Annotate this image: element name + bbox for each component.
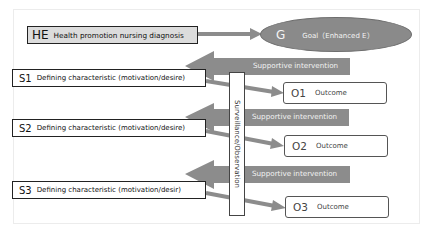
he-to-goal-arrow <box>198 28 262 40</box>
s1-label: Defining characteristic (motivation/desi… <box>37 74 185 82</box>
outcome-box-3: O3 Outcome <box>285 196 389 218</box>
s2-to-o2-arrow <box>206 131 284 149</box>
defining-characteristic-box-2: S2 Defining characteristic (motivation/d… <box>12 119 206 137</box>
surveillance-observation-box: Surveillance/Observation <box>229 72 245 216</box>
o1-code: O1 <box>291 87 306 99</box>
o3-code: O3 <box>293 201 308 213</box>
o2-code: O2 <box>292 140 307 152</box>
outcome-box-2: O2 Outcome <box>284 135 388 157</box>
surveillance-label: Surveillance/Observation <box>233 100 241 188</box>
he-label: Health promotion nursing diagnosis <box>54 31 184 40</box>
supportive-intervention-label-1: Supportive intervention <box>253 61 338 70</box>
s3-code: S3 <box>19 185 32 196</box>
s1-to-o1-arrow <box>206 81 284 97</box>
s2-code: S2 <box>19 123 32 134</box>
o2-label: Outcome <box>316 142 348 150</box>
s2-label: Defining characteristic (motivation/desi… <box>37 124 185 132</box>
supportive-intervention-label-2: Supportive intervention <box>252 112 337 121</box>
s3-label: Defining characteristic (motivation/desi… <box>37 186 181 194</box>
goal-ellipse: G Goal（Enhanced E） <box>260 17 412 52</box>
defining-characteristic-box-3: S3 Defining characteristic (motivation/d… <box>12 181 206 199</box>
goal-label: Goal（Enhanced E） <box>302 30 373 40</box>
supportive-intervention-label-3: Supportive intervention <box>252 169 337 178</box>
defining-characteristic-box-1: S1 Defining characteristic (motivation/d… <box>12 69 206 87</box>
he-code: HE <box>32 28 49 42</box>
o3-label: Outcome <box>317 203 349 211</box>
goal-code: G <box>276 28 285 42</box>
o1-label: Outcome <box>315 89 347 97</box>
outcome-box-1: O1 Outcome <box>283 82 387 104</box>
s3-to-o3-arrow <box>206 193 286 211</box>
s1-code: S1 <box>19 73 32 84</box>
health-promotion-diagnosis-box: HE Health promotion nursing diagnosis <box>27 26 198 44</box>
